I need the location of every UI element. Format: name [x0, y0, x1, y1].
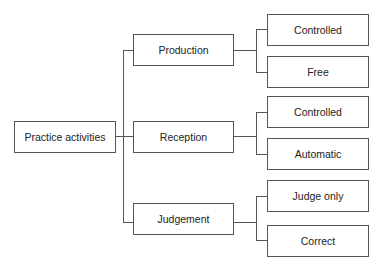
node-production-free: Free — [267, 56, 369, 88]
node-production-controlled: Controlled — [267, 14, 369, 46]
node-label: Practice activities — [24, 131, 105, 143]
connector-reception-vertical — [256, 112, 257, 155]
connector-production-vertical — [256, 29, 257, 73]
node-label: Automatic — [295, 148, 342, 160]
node-label: Judgement — [158, 213, 210, 225]
connector-production-out — [234, 50, 257, 51]
node-practice-activities: Practice activities — [14, 121, 116, 153]
node-judgement-judge-only: Judge only — [267, 180, 369, 212]
connector-reception-automatic — [256, 154, 267, 155]
connector-production — [123, 50, 133, 51]
node-label: Controlled — [294, 24, 342, 36]
node-production: Production — [133, 34, 234, 66]
connector-judgement — [123, 222, 133, 223]
node-label: Reception — [160, 131, 207, 143]
node-label: Judge only — [293, 190, 344, 202]
connector-reception-controlled — [256, 112, 267, 113]
node-label: Free — [307, 66, 329, 78]
node-reception: Reception — [133, 121, 234, 153]
connector-judgement-out — [234, 222, 257, 223]
connector-production-free — [256, 72, 267, 73]
node-reception-controlled: Controlled — [267, 96, 369, 128]
node-reception-automatic: Automatic — [267, 138, 369, 170]
connector-root — [116, 136, 133, 137]
node-label: Production — [158, 44, 208, 56]
node-label: Controlled — [294, 106, 342, 118]
connector-reception-out — [234, 136, 257, 137]
connector-judgement-correct — [256, 240, 267, 241]
connector-judgement-vertical — [256, 196, 257, 241]
connector-trunk — [123, 50, 124, 223]
connector-production-controlled — [256, 29, 267, 30]
node-judgement-correct: Correct — [267, 225, 369, 257]
node-label: Correct — [301, 235, 335, 247]
connector-judgement-judge-only — [256, 196, 267, 197]
node-judgement: Judgement — [133, 203, 234, 235]
